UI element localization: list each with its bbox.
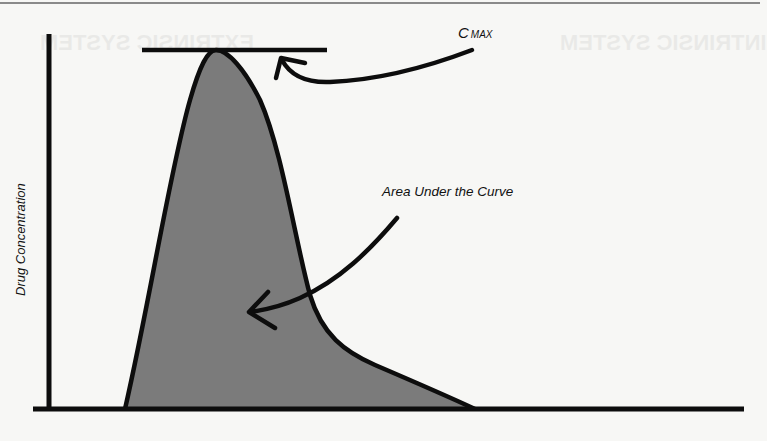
cmax-label-main: C	[458, 24, 469, 41]
cmax-arrow-icon	[276, 50, 472, 82]
auc-label: Area Under the Curve	[382, 184, 513, 199]
cmax-label: CMAX	[458, 24, 493, 41]
y-axis-label: Drug Concentration	[13, 183, 28, 296]
cmax-label-subscript: MAX	[471, 29, 493, 40]
auc-area	[125, 50, 475, 409]
